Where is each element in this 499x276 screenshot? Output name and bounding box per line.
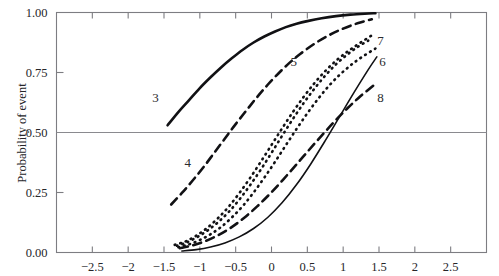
x-tick-label: −1 — [193, 260, 206, 274]
x-tick-label: 1.5 — [371, 260, 387, 274]
x-tick-label: 1 — [340, 260, 346, 274]
y-tick-label: 1.00 — [26, 6, 48, 20]
curve-label-3: 3 — [152, 90, 159, 105]
curve-8 — [180, 84, 376, 248]
curve-label-4: 4 — [184, 155, 191, 170]
curve-label-6: 6 — [379, 54, 386, 69]
x-tick-label: −2 — [122, 260, 135, 274]
x-axis-tick-labels: −2.5−2−1.5−1−0.500.511.522.5 — [81, 260, 458, 274]
plot-canvas: −2.5−2−1.5−1−0.500.511.522.5 0.000.250.5… — [0, 0, 499, 276]
x-tick-label: −2.5 — [81, 260, 104, 274]
y-axis-title: Probability of event — [15, 83, 29, 183]
x-tick-label: 0 — [268, 260, 274, 274]
curve-label-7: 7 — [377, 33, 384, 48]
y-tick-label: 0.00 — [26, 246, 48, 260]
chart-figure: −2.5−2−1.5−1−0.500.511.522.5 0.000.250.5… — [0, 0, 499, 276]
curve-label-8: 8 — [377, 90, 384, 105]
curve-label-5: 5 — [290, 54, 297, 69]
x-tick-label: 2 — [412, 260, 418, 274]
y-tick-label: 0.75 — [26, 66, 48, 80]
x-tick-label: 2.5 — [443, 260, 459, 274]
x-tick-label: −0.5 — [224, 260, 247, 274]
x-tick-label: −1.5 — [153, 260, 176, 274]
y-tick-label: 0.25 — [26, 186, 48, 200]
curve-7 — [175, 35, 372, 245]
x-tick-label: 0.5 — [300, 260, 316, 274]
